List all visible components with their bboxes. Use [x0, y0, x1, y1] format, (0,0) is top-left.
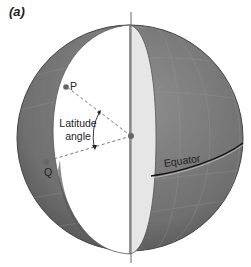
point-p-marker	[63, 84, 69, 90]
label-latitude-line2: angle	[53, 130, 103, 142]
point-q-marker	[43, 159, 49, 165]
label-point-p: P	[70, 80, 77, 92]
center-marker	[128, 133, 134, 139]
globe-latitude-diagram: (a) P Q Latitude angle Equator	[0, 0, 251, 267]
panel-label: (a)	[9, 4, 25, 19]
label-point-q: Q	[44, 166, 52, 178]
label-latitude-line1: Latitude	[53, 117, 103, 129]
globe-graphic	[0, 0, 251, 267]
